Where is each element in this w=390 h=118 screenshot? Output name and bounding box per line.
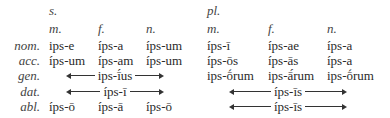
arrow-line (135, 75, 159, 76)
pl-fem-header: f. (268, 21, 275, 36)
sg-nom-neut: íps-um (146, 38, 182, 53)
pl-abl-span: íps-īs (229, 99, 347, 114)
arrow-line (71, 75, 95, 76)
arrow-right-icon (159, 89, 164, 95)
singular-header: s. (49, 3, 57, 18)
arrow-line (305, 106, 342, 107)
case-label-abl: abl. (0, 99, 40, 114)
sg-masc-header: m. (49, 21, 62, 36)
pl-gen-neut: ips-ṓrum (327, 68, 374, 83)
sg-acc-masc: íps-um (49, 53, 85, 68)
arrow-line (305, 91, 342, 92)
case-label-dat: dat. (0, 84, 40, 99)
sg-neut-header: n. (146, 21, 156, 36)
case-label-acc: acc. (0, 53, 40, 68)
pl-abl-form: íps-īs (271, 99, 305, 115)
sg-abl-masc: íps-ō (49, 99, 75, 114)
sg-gen-span: ips-ī́us (66, 68, 164, 83)
pl-dat-form: íps-īs (271, 84, 305, 100)
pl-dat-span: íps-īs (229, 84, 347, 99)
pl-masc-header: m. (207, 21, 220, 36)
pl-gen-masc: ips-ṓrum (207, 68, 254, 83)
pl-nom-neut: íps-a (327, 38, 352, 53)
arrow-line (234, 91, 271, 92)
arrow-right-icon (342, 104, 347, 110)
case-label-gen: gen. (0, 68, 40, 83)
arrow-right-icon (342, 89, 347, 95)
arrow-line (71, 91, 100, 92)
pl-gen-fem: ips-ā́rum (268, 68, 314, 83)
sg-gen-form: ips-ī́us (95, 68, 136, 84)
case-label-nom: nom. (0, 38, 40, 53)
arrow-line (234, 106, 271, 107)
pl-acc-masc: íps-ōs (207, 53, 238, 68)
sg-acc-fem: íps-am (98, 53, 133, 68)
pl-nom-fem: íps-ae (268, 38, 299, 53)
sg-nom-fem: íps-a (98, 38, 123, 53)
sg-dat-span: íps-ī (66, 84, 164, 99)
pl-acc-fem: íps-ās (268, 53, 298, 68)
sg-dat-form: íps-ī (100, 84, 129, 100)
sg-acc-neut: íps-um (146, 53, 182, 68)
plural-header: pl. (207, 3, 220, 18)
pl-acc-neut: íps-a (327, 53, 352, 68)
sg-nom-masc: ips-e (49, 38, 74, 53)
arrow-line (130, 91, 159, 92)
sg-abl-neut: íps-ō (146, 99, 172, 114)
sg-abl-fem: íps-ā (98, 99, 123, 114)
sg-fem-header: f. (98, 21, 105, 36)
pl-nom-masc: íps-ī (207, 38, 230, 53)
pl-neut-header: n. (327, 21, 337, 36)
arrow-right-icon (159, 73, 164, 79)
